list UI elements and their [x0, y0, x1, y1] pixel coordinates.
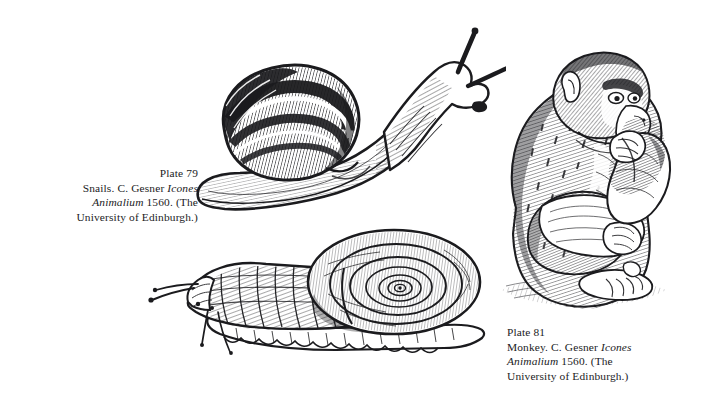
snail-conical-shell-illustration: [186, 20, 506, 235]
caption-line: Plate 79: [28, 166, 198, 181]
caption-text: University of Edinburgh.): [507, 370, 629, 382]
monkey-foot: [579, 270, 652, 300]
caption-plate-81: Plate 81 Monkey. C. Gesner Icones Animal…: [507, 325, 693, 383]
caption-line: Animalium 1560. (The: [507, 354, 693, 369]
caption-text: Snails. C. Gesner: [83, 182, 168, 194]
caption-text: Plate 81: [507, 326, 545, 338]
caption-line: Plate 81: [507, 325, 693, 340]
caption-line: Snails. C. Gesner Icones: [28, 181, 198, 196]
caption-title-italic: Animalium: [507, 355, 558, 367]
caption-plate-79: Plate 79 Snails. C. Gesner Icones Animal…: [28, 166, 198, 224]
monkey-drawing: [498, 48, 698, 318]
caption-title-italic: Animalium: [92, 196, 143, 208]
caption-text: Monkey. C. Gesner: [507, 341, 601, 353]
snail-top-drawing: [186, 28, 506, 220]
caption-text: University of Edinburgh.): [76, 211, 198, 223]
caption-line: Animalium 1560. (The: [28, 195, 198, 210]
caption-title-italic: Icones: [601, 341, 632, 353]
caption-line: Monkey. C. Gesner Icones: [507, 340, 693, 355]
snail-flat-spiral-illustration: [148, 228, 490, 370]
caption-line: University of Edinburgh.): [507, 369, 693, 384]
caption-text: 1560. (The: [558, 355, 612, 367]
monkey-illustration: [498, 28, 698, 323]
plate-page: Plate 79 Snails. C. Gesner Icones Animal…: [0, 0, 703, 401]
monkey-ear: [562, 72, 580, 102]
snail-bottom-drawing: [148, 230, 484, 355]
caption-line: University of Edinburgh.): [28, 210, 198, 225]
snail-shell-2: [308, 230, 480, 334]
